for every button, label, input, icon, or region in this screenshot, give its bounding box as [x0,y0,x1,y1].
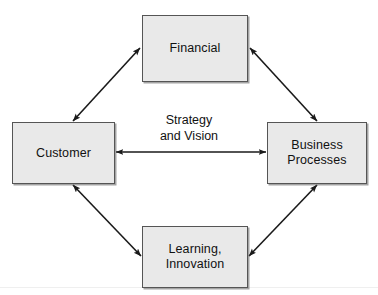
node-customer[interactable]: Customer [12,122,115,184]
node-business-processes-label: Business Processes [287,138,346,168]
center-caption-strategy-and-vision: Strategy and Vision [128,113,250,144]
connector-customer-financial [73,48,140,121]
node-business-processes[interactable]: Business Processes [267,122,367,184]
node-learning-innovation[interactable]: Learning, Innovation [142,226,248,288]
node-financial-label: Financial [170,41,221,56]
connector-learning-innovation-business-processes [249,185,317,256]
node-customer-label: Customer [36,146,91,161]
node-learning-innovation-label: Learning, Innovation [166,242,225,272]
node-financial[interactable]: Financial [142,15,248,82]
balanced-scorecard-diagram: Financial Customer Business Processes Le… [0,0,378,295]
connector-financial-business-processes [250,48,317,121]
connector-customer-learning-innovation [73,185,141,256]
